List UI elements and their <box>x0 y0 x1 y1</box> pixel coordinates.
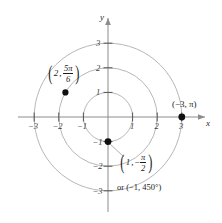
annotation-alternate-form: or (−1, 450°) <box>117 182 161 192</box>
y-tick-label--2: −2 <box>93 162 103 171</box>
x-tick-label-3: 3 <box>179 122 183 131</box>
y-axis-arrowhead <box>105 18 111 25</box>
y-axis-label: y <box>100 13 104 22</box>
x-axis <box>18 114 205 120</box>
y-tick-label--3: −3 <box>93 187 103 196</box>
x-tick-label--3: −3 <box>28 122 38 131</box>
open-paren-icon: ( <box>48 65 52 81</box>
annotation-point-1-neg-pi-2: ( 1, − π 2 ) <box>119 153 153 172</box>
minus-sign-icon: − <box>134 158 139 167</box>
angle-numerator: π <box>140 153 146 162</box>
x-tick-label--1: −1 <box>77 122 87 131</box>
point-1-neg-pi-2 <box>105 138 112 145</box>
angle-numerator: 5π <box>63 64 74 73</box>
angle-denominator: 2 <box>140 163 146 172</box>
y-tick-label-3: 3 <box>96 39 100 48</box>
y-axis <box>105 18 111 212</box>
angle-denominator: 6 <box>65 74 71 83</box>
point-2-5pi-6 <box>62 89 68 95</box>
point-neg3-pi <box>178 114 185 121</box>
x-tick-label-1: 1 <box>130 122 134 131</box>
polar-coordinates-figure: y x −3 −2 −1 1 2 3 3 2 1 −1 −2 −3 ( 2, 5… <box>0 0 222 223</box>
annotation-point-2-5pi-6: ( 2, 5π 6 ) <box>47 64 81 83</box>
x-axis-label: x <box>206 119 210 128</box>
y-tick-label-1: 1 <box>96 88 100 97</box>
annotation-point-neg3-pi: (−3, π) <box>172 99 197 109</box>
radius-value: 2 <box>54 69 59 78</box>
y-tick-label-2: 2 <box>96 64 100 73</box>
x-tick-label-2: 2 <box>155 122 159 131</box>
plot-canvas <box>0 0 222 223</box>
angle-fraction: 5π 6 <box>63 64 74 83</box>
close-paren-icon: ) <box>148 154 152 170</box>
close-paren-icon: ) <box>75 65 79 81</box>
radius-value: 1 <box>126 158 131 167</box>
angle-fraction: π 2 <box>140 153 146 172</box>
open-paren-icon: ( <box>120 154 124 170</box>
comma-separator: , <box>131 158 133 167</box>
x-axis-arrowhead <box>198 114 205 120</box>
x-tick-label--2: −2 <box>53 122 63 131</box>
comma-separator: , <box>59 69 61 78</box>
y-tick-label--1: −1 <box>93 138 103 147</box>
